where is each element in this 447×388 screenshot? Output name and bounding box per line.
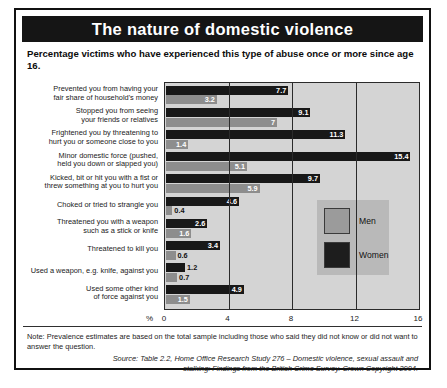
category-label: Threatened you with a weaponsuch as a st… <box>25 218 158 235</box>
bar-value-label: 11.3 <box>330 130 344 139</box>
bar-value-label: 0.6 <box>178 251 188 260</box>
footer-divider <box>23 326 422 327</box>
footnote: Note: Prevalence estimates are based on … <box>27 332 418 351</box>
bar-value-label: 0.7 <box>179 273 189 282</box>
bar-men: 1.4 <box>166 140 188 149</box>
category-label: Choked or tried to strangle you <box>25 201 158 210</box>
source-citation: Source: Table 2.2, Home Office Research … <box>96 354 418 374</box>
bar-value-label: 4.9 <box>232 285 242 294</box>
bar-value-label: 3.2 <box>205 95 215 104</box>
bar-women: 2.6 <box>166 219 207 228</box>
bar-value-label: 7 <box>271 118 275 127</box>
category-label: Frightened you by threatening tohurt you… <box>25 129 158 146</box>
axis-tick-label: 4 <box>225 314 229 323</box>
bar-value-label: 2.6 <box>195 219 205 228</box>
value-axis: 0481216 <box>164 311 420 325</box>
axis-tick-label: 0 <box>162 314 166 323</box>
category-label: Minor domestic force (pushed,held you do… <box>25 152 158 169</box>
figure-panel: The nature of domestic violence Percenta… <box>14 8 431 370</box>
gridline <box>229 83 230 309</box>
bar-value-label: 15.4 <box>394 152 408 161</box>
bar-women: 7.7 <box>166 86 288 95</box>
category-label: Threatened to kill you <box>25 245 158 254</box>
legend-label-women: Women <box>359 250 388 260</box>
bar-women: 4.9 <box>166 285 244 294</box>
category-label: Prevented you from having yourfair share… <box>25 85 158 102</box>
bar-value-label: 9.7 <box>308 174 318 183</box>
bar-men: 3.2 <box>166 95 217 104</box>
bar-men: 0.4 <box>166 206 172 215</box>
bar-women: 11.3 <box>166 130 345 139</box>
category-label: Kicked, bit or hit you with a fist orthr… <box>25 174 158 191</box>
axis-tick-label: 16 <box>414 314 423 323</box>
bar-value-label: 1.5 <box>178 295 188 304</box>
bar-men: 5.9 <box>166 184 260 193</box>
category-axis-labels: Prevented you from having yourfair share… <box>27 82 161 310</box>
bar-value-label: 5.1 <box>235 162 245 171</box>
gridline <box>292 83 293 309</box>
bar-value-label: 3.4 <box>208 241 218 250</box>
title-banner: The nature of domestic violence <box>22 16 423 42</box>
category-label: Stopped you from seeingyour friends or r… <box>25 107 158 124</box>
axis-unit-label: % <box>146 314 153 323</box>
bar-value-label: 1.2 <box>187 263 197 272</box>
legend-swatch-men <box>324 208 350 234</box>
bar-men: 0.6 <box>166 251 176 260</box>
bar-value-label: 0.4 <box>174 206 184 215</box>
legend-swatch-women <box>324 242 350 268</box>
bar-women: 1.2 <box>166 263 185 272</box>
category-label: Used some other kindof force against you <box>25 285 158 302</box>
bar-value-label: 1.6 <box>179 229 189 238</box>
page-title: The nature of domestic violence <box>92 20 353 39</box>
chart-subtitle: Percentage victims who have experienced … <box>27 48 419 73</box>
bar-men: 1.5 <box>166 295 190 304</box>
bar-women: 3.4 <box>166 241 220 250</box>
axis-tick-label: 8 <box>289 314 293 323</box>
bar-women: 15.4 <box>166 152 410 161</box>
bar-women: 9.1 <box>166 108 310 117</box>
plot-area: 7.73.29.1711.31.415.45.19.75.94.60.42.61… <box>164 82 420 310</box>
chart-legend: Men Women <box>317 200 389 275</box>
bar-value-label: 5.9 <box>248 184 258 193</box>
bar-men: 5.1 <box>166 162 247 171</box>
category-label: Used a weapon, e.g. knife, against you <box>25 267 158 276</box>
bar-value-label: 1.4 <box>176 140 186 149</box>
bar-women: 9.7 <box>166 174 320 183</box>
gridline <box>356 83 357 309</box>
axis-tick-label: 12 <box>350 314 359 323</box>
bar-men: 0.7 <box>166 273 177 282</box>
bar-value-label: 7.7 <box>276 86 286 95</box>
legend-label-men: Men <box>359 216 376 226</box>
bar-chart: Prevented you from having yourfair share… <box>27 82 420 322</box>
legend-item-men: Men <box>324 208 376 234</box>
bar-men: 7 <box>166 118 277 127</box>
bar-value-label: 9.1 <box>298 108 308 117</box>
bar-men: 1.6 <box>166 229 191 238</box>
